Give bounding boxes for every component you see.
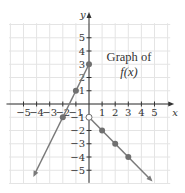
filled-point	[112, 141, 118, 147]
open-point	[86, 114, 92, 120]
filled-point	[125, 154, 131, 160]
x-tick-label: 1	[99, 107, 105, 118]
title-line-1: Graph of	[107, 50, 153, 64]
filled-point	[86, 61, 92, 67]
y-axis-label: y	[79, 9, 86, 20]
x-tick-label: 5	[151, 107, 157, 118]
y-tick-label: 1	[79, 85, 85, 96]
y-tick-label: 4	[79, 46, 85, 57]
x-tick-label: 2	[112, 107, 118, 118]
y-tick-label: −1	[70, 112, 85, 123]
filled-point	[73, 88, 79, 94]
x-axis-label: x	[172, 107, 178, 118]
title-line-2: f(x)	[120, 65, 137, 79]
filled-point	[60, 114, 66, 120]
y-axis-arrow-icon	[87, 12, 92, 18]
y-tick-label: −2	[70, 125, 85, 136]
x-tick-label: 3	[125, 107, 131, 118]
grid-lines	[9, 23, 170, 183]
function-graph: −5−4−3−2−11234554321−1−2−3−4−5 x y Graph…	[0, 0, 185, 193]
function-line-2	[89, 117, 150, 178]
y-tick-label: 5	[79, 32, 85, 43]
x-axis-arrow-icon	[168, 102, 174, 107]
function-series	[33, 61, 152, 181]
y-tick-label: 3	[79, 59, 85, 70]
x-tick-label: 4	[138, 107, 144, 118]
y-tick-label: −4	[70, 152, 85, 163]
y-tick-label: −3	[70, 138, 85, 149]
y-tick-label: −5	[70, 165, 85, 176]
filled-point	[99, 128, 105, 134]
